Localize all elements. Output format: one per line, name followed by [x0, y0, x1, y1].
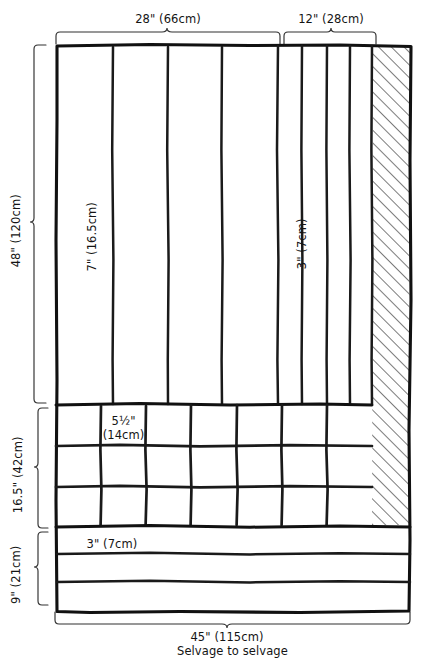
- section-divider-middle-bottom: [56, 526, 410, 528]
- label-left-9in: 9" (21cm): [10, 520, 24, 630]
- selvage-hatched-area: [372, 46, 410, 525]
- label-bottom-45in: 45" (115cm): [177, 631, 277, 645]
- horizontal-strip-lines: [57, 553, 410, 583]
- label-top-28in: 28" (66cm): [118, 13, 218, 27]
- vertical-strip-lines: [112, 46, 372, 404]
- left-brace-16-5in: [34, 408, 48, 528]
- diagram-linework: [0, 0, 432, 658]
- label-selvage-to-selvage: Selvage to selvage: [177, 645, 277, 658]
- fabric-layout-diagram: 28" (66cm) 12" (28cm) 48" (120cm) 16.5" …: [0, 0, 432, 658]
- label-narrow-strip-3in: 3" (7cm): [296, 189, 310, 299]
- label-left-48in: 48" (120cm): [10, 176, 24, 286]
- section-divider-top-middle: [56, 404, 372, 406]
- left-brace-48in: [30, 45, 46, 403]
- top-brace-28in: [56, 28, 280, 44]
- top-brace-12in: [284, 28, 376, 44]
- label-left-16-5in: 16.5" (42cm): [12, 420, 26, 530]
- label-wide-strip-7in: 7" (16.5cm): [86, 177, 100, 297]
- bottom-brace-45in: [55, 612, 410, 628]
- label-square-block: 5½" (14cm): [101, 415, 146, 442]
- label-square-block-inches: 5½": [101, 415, 146, 429]
- label-square-block-cm: (14cm): [101, 429, 146, 443]
- label-top-12in: 12" (28cm): [281, 13, 381, 27]
- left-brace-9in: [34, 532, 48, 605]
- label-bottom-strip-3in: 3" (7cm): [67, 538, 157, 552]
